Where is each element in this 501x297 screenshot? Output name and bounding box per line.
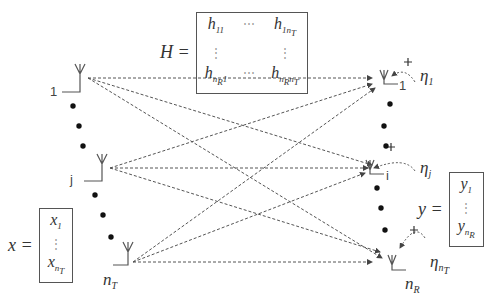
channel-matrix: H = h11 ⋯ h1nT ⋮ ⋮ hnR1 ⋯ hnRnT: [160, 12, 308, 94]
tx-label-j: j: [70, 172, 73, 187]
noise-label-1: η1: [420, 66, 433, 87]
rx-label-1: 1: [399, 78, 406, 93]
noise-label-j: ηj: [420, 158, 431, 179]
input-vector: x = x1 ⋮ xnT: [8, 208, 73, 283]
output-vector: y = y1 ⋮ ynR: [418, 172, 484, 247]
rx-label-i: i: [386, 168, 389, 183]
tx-antenna-1-icon: [62, 64, 85, 92]
input-vector-lhs: x =: [8, 235, 33, 256]
noise-label-nt: ηnT: [430, 252, 449, 276]
output-vector-lhs: y =: [418, 199, 443, 220]
rx-antenna-nr-icon: [388, 255, 406, 270]
tx-antenna-j-icon: [84, 154, 107, 181]
tx-label-nt: nT: [103, 270, 117, 291]
tx-label-1: 1: [50, 84, 57, 99]
mimo-diagram: H = h11 ⋯ h1nT ⋮ ⋮ hnR1 ⋯ hnRnT x = x1 ⋮…: [0, 0, 501, 297]
rx-antenna-1-icon: [380, 70, 398, 84]
tx-antenna-nt-icon: [113, 242, 133, 265]
rx-label-nr: nR: [405, 274, 420, 295]
channel-matrix-lhs: H =: [160, 42, 190, 63]
rx-antenna-i-icon: [366, 160, 384, 174]
